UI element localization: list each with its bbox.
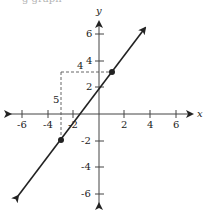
svg-text:2: 2 <box>86 81 92 92</box>
rise-label: 5 <box>53 94 59 105</box>
svg-text:-4: -4 <box>81 161 91 172</box>
point-neg3-neg2 <box>58 137 64 143</box>
x-tick-labels: -6 -4 -2 2 4 6 <box>17 119 179 130</box>
y-axis-label: y <box>95 5 102 16</box>
svg-text:4: 4 <box>147 119 153 130</box>
svg-text:6: 6 <box>86 28 92 39</box>
svg-text:-6: -6 <box>17 119 27 130</box>
svg-text:4: 4 <box>86 55 92 66</box>
svg-text:-4: -4 <box>43 119 53 130</box>
run-label: 4 <box>77 60 83 71</box>
svg-text:6: 6 <box>173 119 179 130</box>
point-1-3 <box>109 69 115 75</box>
x-axis-label: x <box>197 108 203 119</box>
top-caption-fragment: g graph <box>22 0 62 4</box>
svg-text:2: 2 <box>121 119 127 130</box>
svg-text:-6: -6 <box>81 188 91 199</box>
svg-text:-2: -2 <box>81 135 91 146</box>
coordinate-plane: g graph x y -6 -4 -2 2 4 6 6 4 2 -2 -4 -… <box>0 0 206 210</box>
